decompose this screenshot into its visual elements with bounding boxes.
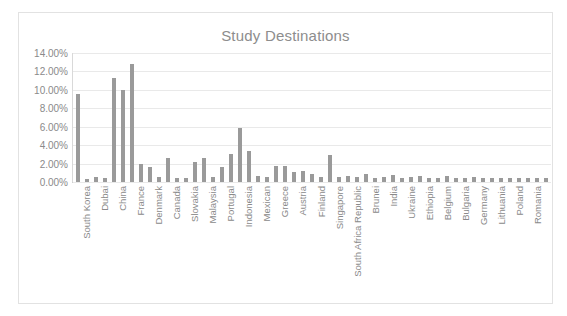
bar [175,178,179,182]
bar [265,177,269,182]
bar [535,178,539,182]
x-axis-tick-label: China [117,186,128,211]
x-axis-tick-label: Singapore [334,186,345,229]
bar [121,90,125,182]
x-axis-tick-label: Slovakia [189,186,200,222]
x-axis-tick-label: Portugal [225,186,236,221]
bar [328,155,332,182]
x-axis-tick-label: Brunei [370,186,381,213]
y-axis-tick-label: 6.00% [40,121,68,132]
x-axis-tick-label: Canada [171,186,182,219]
bar [337,177,341,182]
bar [382,177,386,182]
x-axis-tick-label: South Korea [81,186,92,239]
gridline [73,182,551,183]
bar [274,166,278,182]
bar [112,78,116,182]
bar [364,174,368,182]
y-axis-tick-label: 2.00% [40,158,68,169]
bar [211,177,215,182]
bar [76,94,80,182]
bar [499,178,503,182]
bar [508,178,512,182]
bar [301,171,305,182]
bar [490,178,494,182]
gridline [73,71,551,72]
bar [346,176,350,182]
bar [472,177,476,182]
bar [526,178,530,182]
bar [544,178,548,182]
bar [418,176,422,182]
bar [463,178,467,182]
bar [247,151,251,182]
x-axis-tick-label: Mexican [261,186,272,221]
bar [517,178,521,182]
gridline [73,164,551,165]
x-axis-tick-label: South Africa Republic [352,186,363,277]
chart-frame: Study Destinations 14.00%12.00%10.00%8.0… [18,12,553,304]
bar [220,167,224,182]
gridline [73,145,551,146]
x-axis-tick-label: Dubai [99,186,110,211]
y-axis-tick-label: 10.00% [34,84,68,95]
x-axis-tick-label: Poland [514,186,525,216]
bar [373,178,377,182]
chart-title: Study Destinations [19,27,552,44]
x-axis-tick-label: Denmark [153,186,164,225]
y-axis-tick-label: 8.00% [40,103,68,114]
bar [409,177,413,182]
bar [310,174,314,182]
gridline [73,108,551,109]
x-axis-tick-label: Greece [279,186,290,217]
x-axis-tick-label: Finland [316,186,327,217]
y-axis-tick-label: 0.00% [40,177,68,188]
x-axis-tick-label: Bulgaria [460,186,471,221]
x-axis-tick-label: Belgium [442,186,453,220]
bar [139,164,143,182]
bar [283,166,287,182]
x-axis-tick-label: Romania [532,186,543,224]
bar [94,177,98,182]
bar [454,178,458,182]
bar [229,154,233,182]
bar [184,178,188,182]
bar [481,178,485,182]
x-axis-tick-label: Malaysia [207,186,218,224]
bar [256,176,260,182]
bar [238,128,242,182]
x-axis-tick-label: Germany [478,186,489,225]
y-axis-tick-label: 14.00% [34,48,68,59]
bar [391,175,395,182]
bar [166,158,170,182]
bar [157,177,161,182]
bar [319,177,323,182]
bar [292,172,296,182]
x-axis-tick-label: Indonesia [243,186,254,227]
bar [445,176,449,182]
y-axis-tick-label: 4.00% [40,140,68,151]
x-axis-tick-label: Lithuania [496,186,507,225]
bar [400,178,404,182]
x-axis-tick-label: Ukraine [406,186,417,219]
bar [202,158,206,182]
x-axis-tick-label: France [135,186,146,216]
y-axis-tick-label: 12.00% [34,66,68,77]
gridline [73,127,551,128]
bar [427,178,431,182]
x-axis-tick-label: Austria [297,186,308,216]
bar [436,178,440,182]
bar [103,178,107,182]
plot-area: 14.00%12.00%10.00%8.00%6.00%4.00%2.00%0.… [73,53,551,182]
gridline [73,90,551,91]
bar [130,64,134,182]
x-axis-tick-label: Ethiopia [424,186,435,220]
bar [193,162,197,182]
gridline [73,53,551,54]
bar [148,167,152,182]
bar [85,179,89,182]
bar [355,177,359,182]
x-axis-tick-label: India [388,186,399,207]
